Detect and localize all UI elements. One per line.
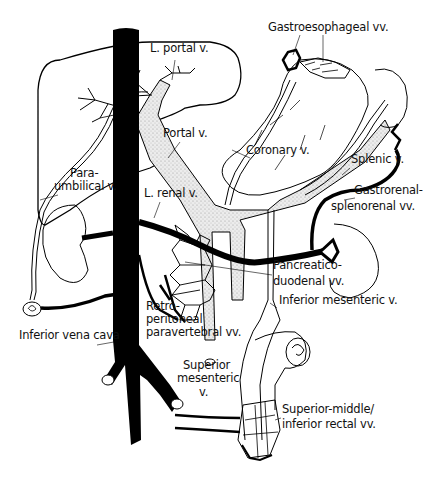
label-portal-v: Portal v. bbox=[163, 127, 207, 140]
label-para-umbilical-v-2: umbilical v. bbox=[54, 180, 117, 193]
rectum bbox=[255, 332, 310, 410]
spleen bbox=[375, 69, 407, 128]
label-pancreaticoduodenal-2: duodenal vv. bbox=[273, 275, 344, 288]
inferior-vena-cava bbox=[102, 28, 183, 445]
label-rectal-vv-1: Superior-middle/ bbox=[282, 403, 374, 416]
label-inferior-vena-cava: Inferior vena cava bbox=[19, 329, 120, 342]
liver bbox=[38, 42, 241, 225]
label-gastrorenal-1: Gastrorenal- bbox=[354, 184, 423, 197]
label-l-portal-v: L. portal v. bbox=[150, 42, 208, 55]
label-gastroesophageal-vv: Gastroesophageal vv. bbox=[268, 21, 388, 34]
label-pancreaticoduodenal-1: Pancreatico- bbox=[273, 259, 342, 272]
label-superior-mesenteric-3: v. bbox=[199, 386, 208, 399]
label-coronary-v: Coronary v. bbox=[246, 144, 309, 157]
label-rectal-vv-2: inferior rectal vv. bbox=[282, 418, 376, 431]
label-l-renal-v: L. renal v. bbox=[144, 187, 198, 200]
umbilicus bbox=[23, 293, 125, 316]
label-inferior-mesenteric-v: Inferior mesenteric v. bbox=[279, 294, 397, 307]
label-gastrorenal-2: splenorenal vv. bbox=[331, 200, 415, 213]
right-kidney bbox=[43, 205, 113, 283]
inferior-mesenteric-vein bbox=[240, 210, 280, 440]
label-splenic-v: Splenic v. bbox=[351, 153, 404, 166]
label-superior-mesenteric-2: mesenteric bbox=[177, 372, 239, 385]
rectal-varices bbox=[175, 400, 280, 460]
label-retroperitoneal-3: paravertebral vv. bbox=[146, 326, 241, 339]
